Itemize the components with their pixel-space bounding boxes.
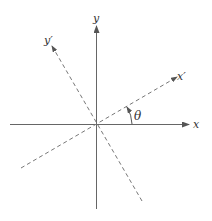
diagram-svg: x y x′ y′ θ — [0, 0, 212, 221]
y-axis-label: y — [92, 12, 100, 25]
y-prime-label: y′ — [43, 34, 53, 47]
rotated-axes-diagram: x y x′ y′ θ — [0, 0, 212, 221]
x-prime-label: x′ — [177, 70, 186, 83]
x-axis-label: x — [193, 118, 200, 131]
x-prime-axis — [21, 77, 177, 168]
theta-label: θ — [134, 109, 142, 123]
angle-arc — [127, 107, 132, 124]
